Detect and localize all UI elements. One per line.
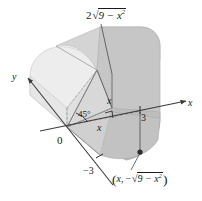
angle-label-45: 45° xyxy=(78,110,91,119)
tick-label-negative-three: −3 xyxy=(83,166,94,176)
solid-diagram-svg xyxy=(0,0,202,201)
base-distance-label: x xyxy=(97,123,101,133)
figure-container: 2√9 − x2 (x, −√9 − x2) y x 0 3 −3 45° x … xyxy=(0,0,202,201)
x-axis-label: x xyxy=(188,98,192,108)
height-label: 2√9 − x2 xyxy=(86,8,126,21)
base-point-label: (x, −√9 − x2) xyxy=(112,172,167,184)
base-point-dot xyxy=(137,149,142,154)
tick-label-three: 3 xyxy=(141,113,146,123)
y-axis-label: y xyxy=(12,72,16,82)
cross-section-height-label: x xyxy=(107,96,111,106)
origin-label: 0 xyxy=(57,135,63,146)
